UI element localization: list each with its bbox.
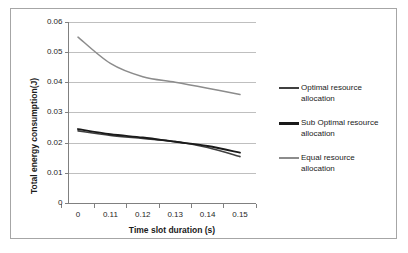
x-axis-title: Time slot duration (s) [82,225,262,235]
legend-line-swatch [278,117,300,129]
chart-figure: Total energy consumption(J) Time slot du… [0,0,408,253]
x-tick-label: 0.13 [160,210,190,219]
y-tick-label: 0.06 [29,17,63,26]
x-tick-label: 0.12 [128,210,158,219]
y-tick-label: 0.01 [29,168,63,177]
axis-lines [65,22,69,204]
legend-item-0[interactable]: Optimal resource allocation [278,82,403,104]
legend-line-swatch [278,152,300,164]
x-tick-marks [62,204,256,208]
legend-item-1[interactable]: Sub Optimal resource allocation [278,117,403,139]
legend-label: Optimal resource allocation [301,82,362,104]
legend-line-swatch [278,82,300,94]
x-tick-label: 0.15 [225,210,255,219]
y-tick-label: 0 [29,198,63,207]
series-line-2 [78,37,240,94]
gridlines [69,22,257,204]
y-tick-label: 0.03 [29,107,63,116]
y-tick-label: 0.02 [29,138,63,147]
series-line-0 [78,131,240,157]
x-tick-label: 0 [63,210,93,219]
y-tick-label: 0.05 [29,47,63,56]
legend-label: Equal resource allocation [301,152,355,174]
y-tick-label: 0.04 [29,77,63,86]
series-lines [78,37,240,156]
legend-item-2[interactable]: Equal resource allocation [278,152,403,174]
x-tick-label: 0.14 [193,210,223,219]
legend-label: Sub Optimal resource allocation [301,117,378,139]
x-tick-label: 0.11 [95,210,125,219]
